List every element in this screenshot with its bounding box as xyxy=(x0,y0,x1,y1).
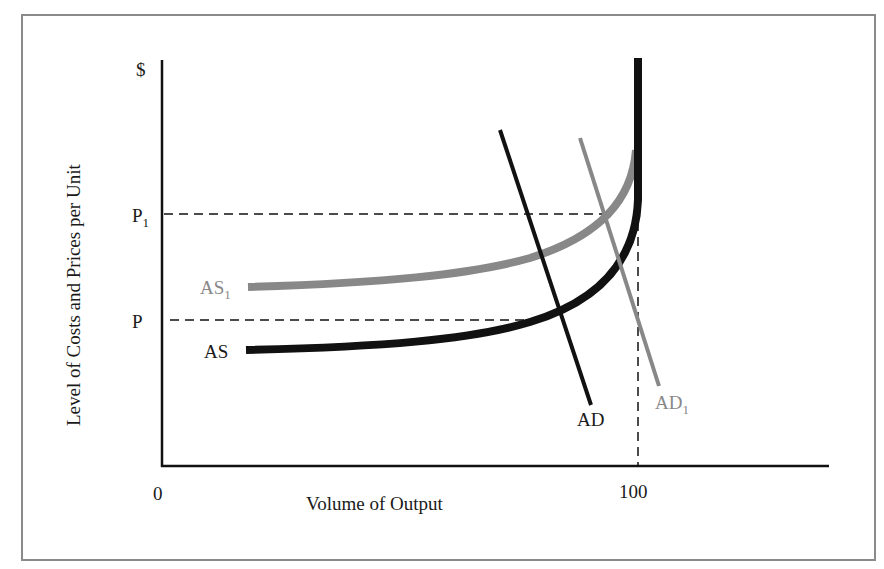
ad-label: AD xyxy=(577,409,604,430)
ad1-label: AD1 xyxy=(655,392,689,417)
x-axis-title: Volume of Output xyxy=(306,493,444,514)
as-label: AS xyxy=(204,341,228,362)
y-axis-title: Level of Costs and Prices per Unit xyxy=(63,164,84,426)
ad-curve xyxy=(500,130,591,405)
x-tick-0: 0 xyxy=(153,483,163,504)
as1-label: AS1 xyxy=(200,277,231,302)
p1-label: P1 xyxy=(132,205,149,230)
as-ad-diagram: $ P1 P AS1 AS AD AD1 0 100 Volume of Out… xyxy=(0,0,884,569)
as-curve xyxy=(246,58,638,350)
ad1-curve xyxy=(580,138,659,386)
as1-curve xyxy=(248,150,636,287)
x-tick-100: 100 xyxy=(619,481,648,502)
p-label: P xyxy=(132,311,143,332)
dollar-label: $ xyxy=(136,59,146,80)
